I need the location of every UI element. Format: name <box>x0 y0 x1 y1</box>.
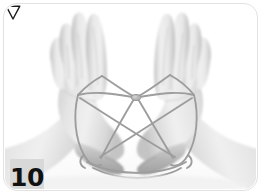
right-hand <box>137 12 256 189</box>
string-center-knot <box>131 95 141 101</box>
photo-ground-shadow <box>12 175 248 189</box>
screenshot-root: 10 <box>0 0 263 195</box>
step-number-badge: 10 <box>10 159 44 189</box>
instruction-photo: 10 <box>5 5 256 189</box>
down-triangle-marker <box>5 5 21 20</box>
step-number-label: 10 <box>10 165 44 190</box>
